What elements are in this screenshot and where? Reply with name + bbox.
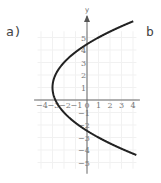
y-axis-label: y	[85, 6, 89, 14]
x-tick-label: 4	[131, 101, 136, 110]
y-tick-label: 2	[81, 71, 86, 80]
x-tick-label: −4	[36, 101, 48, 110]
y-tick-label: 1	[81, 84, 86, 93]
y-tick-label: 3	[81, 59, 86, 68]
y-tick-label: −5	[78, 159, 90, 168]
y-tick-label: −3	[78, 134, 90, 143]
y-axis-arrow-icon	[84, 15, 90, 22]
y-tick-label: −1	[78, 109, 90, 118]
y-tick-label: 5	[81, 34, 86, 43]
x-tick-label: 3	[119, 101, 124, 110]
y-tick-label: −4	[78, 146, 90, 155]
parabola-chart: y−4−3−2−101234−5−4−3−2−112345	[0, 0, 161, 183]
x-tick-label: 2	[108, 101, 113, 110]
parabola-curve	[53, 21, 137, 155]
x-tick-label: 1	[96, 101, 101, 110]
